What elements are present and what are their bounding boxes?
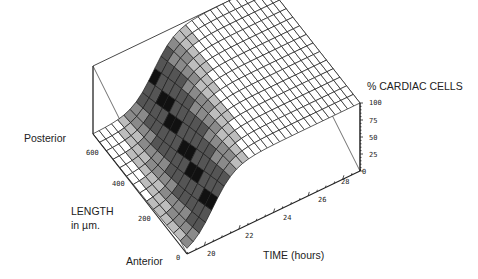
y-tick-0: 0 (176, 254, 180, 262)
time-axis-label: TIME (hours) (263, 249, 324, 261)
x-tick-20: 20 (207, 250, 215, 258)
z-axis-label: % CARDIAC CELLS (367, 80, 463, 92)
surface-plot (0, 0, 478, 279)
x-tick-24: 24 (283, 214, 291, 222)
z-tick-100: 100 (369, 99, 382, 107)
x-tick-22: 22 (245, 232, 253, 240)
length-label-line1: LENGTH (71, 205, 114, 217)
length-label-line2: in µm. (71, 219, 100, 231)
surface-mesh (93, 0, 360, 248)
anterior-label: Anterior (126, 255, 163, 267)
posterior-label: Posterior (24, 132, 66, 144)
y-tick-400: 400 (112, 180, 125, 188)
x-tick-28: 28 (341, 178, 349, 186)
z-tick-0: 0 (362, 168, 366, 176)
z-tick-25: 25 (369, 151, 377, 159)
x-tick-26: 26 (318, 196, 326, 204)
y-tick-600: 600 (86, 149, 99, 157)
z-tick-50: 50 (369, 134, 377, 142)
y-tick-200: 200 (138, 215, 151, 223)
z-tick-75: 75 (369, 117, 377, 125)
